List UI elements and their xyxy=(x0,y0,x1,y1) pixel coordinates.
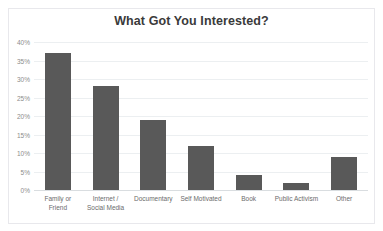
plot-area: 0%5%10%15%20%25%30%35%40% Family or Frie… xyxy=(34,42,368,190)
y-tick-label: 15% xyxy=(17,131,30,138)
y-tick-label: 35% xyxy=(17,57,30,64)
bar-group: Other xyxy=(331,42,357,190)
chart-title: What Got You Interested? xyxy=(9,14,374,28)
bar-group: Documentary xyxy=(140,42,166,190)
y-tick-label: 40% xyxy=(17,39,30,46)
bar xyxy=(188,146,214,190)
chart-container: What Got You Interested? 0%5%10%15%20%25… xyxy=(8,8,375,224)
bar xyxy=(45,53,71,190)
x-tick-label: Other xyxy=(311,195,377,204)
bar xyxy=(283,183,309,190)
y-tick-label: 20% xyxy=(17,113,30,120)
y-tick-label: 10% xyxy=(17,150,30,157)
y-tick-label: 0% xyxy=(21,187,30,194)
bar xyxy=(140,120,166,190)
bar xyxy=(331,157,357,190)
y-tick-label: 30% xyxy=(17,76,30,83)
bar xyxy=(236,175,262,190)
bar xyxy=(93,86,119,190)
bar-group: Family or Friend xyxy=(45,42,71,190)
y-tick-label: 5% xyxy=(21,168,30,175)
bar-group: Public Activism xyxy=(283,42,309,190)
y-tick-label: 25% xyxy=(17,94,30,101)
gridline-0% xyxy=(34,190,368,191)
bar-group: Book xyxy=(236,42,262,190)
bar-group: Internet / Social Media xyxy=(93,42,119,190)
bar-series: Family or FriendInternet / Social MediaD… xyxy=(34,42,368,190)
bar-group: Self Motivated xyxy=(188,42,214,190)
